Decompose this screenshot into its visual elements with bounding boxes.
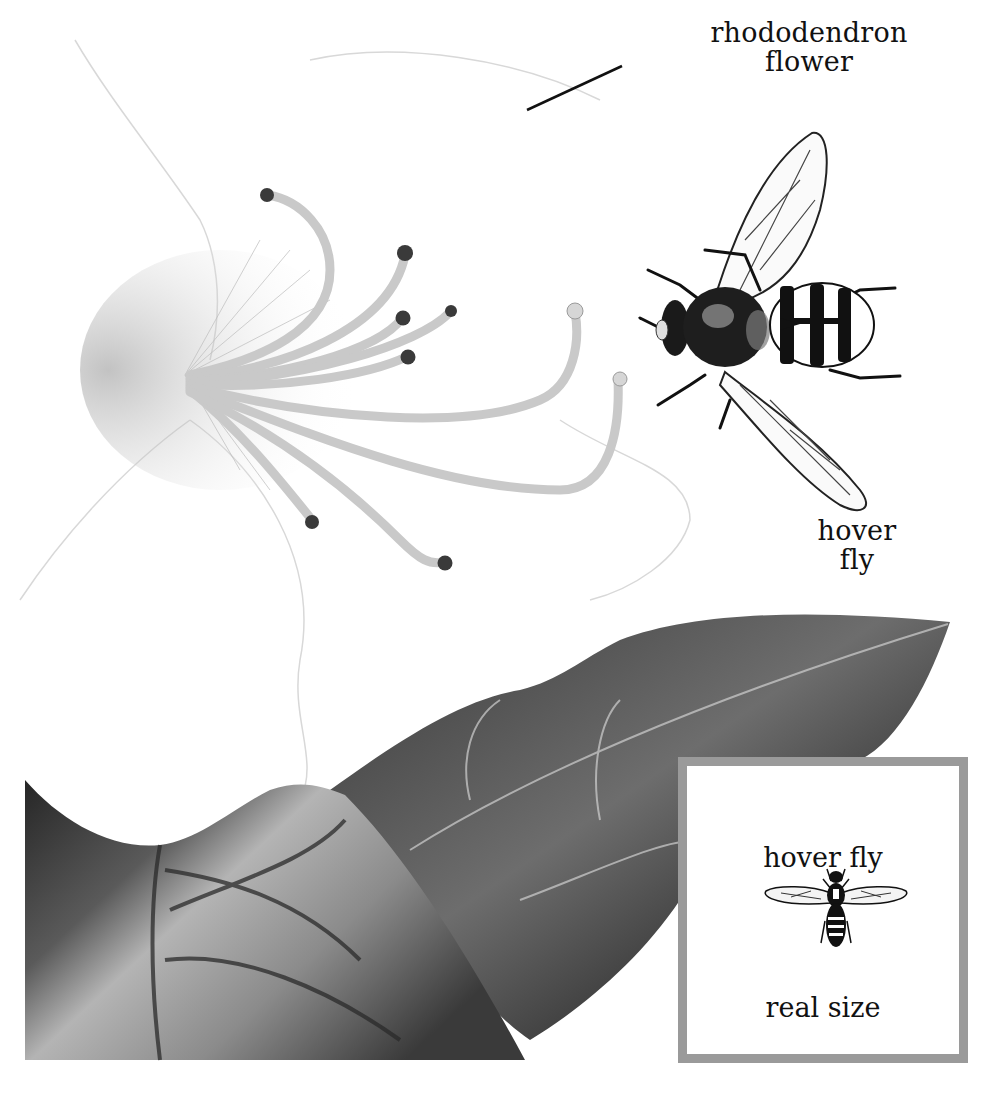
inset-caption: real size (687, 992, 959, 1023)
flower-label: rhododendron flower (624, 18, 994, 76)
hover-fly-drawing (640, 133, 900, 510)
hover-fly-label: hover fly (792, 516, 922, 574)
hover-fly-label-line1: hover (792, 516, 922, 545)
real-size-inset: hover fly real size (678, 757, 968, 1063)
flower-label-line2: flower (624, 47, 994, 76)
flower-pointer-line (527, 66, 622, 110)
hover-fly-icon (761, 863, 911, 953)
hover-fly-label-line2: fly (792, 545, 922, 574)
illustration-scene: rhododendron flower hover fly hover fly … (0, 0, 998, 1093)
flower-label-line1: rhododendron (624, 18, 994, 47)
